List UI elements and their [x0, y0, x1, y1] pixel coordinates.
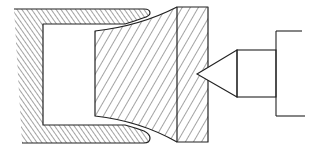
- workpiece: [95, 7, 177, 142]
- workpiece-body: [95, 7, 177, 142]
- indenter-shank: [237, 50, 276, 97]
- diagram-canvas: [0, 0, 317, 151]
- indenter: [197, 31, 305, 116]
